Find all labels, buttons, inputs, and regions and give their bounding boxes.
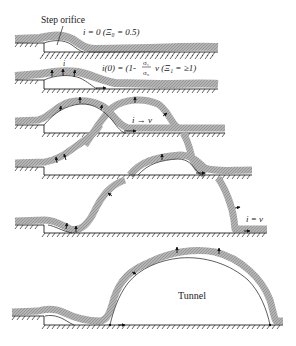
panel-6: Tunnel	[12, 247, 283, 329]
panel1-equation: i = 0 (Ξ₀ = 0.5)	[83, 27, 140, 37]
hatch-ticks	[12, 316, 280, 329]
panel5-label: i = v	[246, 214, 263, 224]
svg-text:v (Ξ₁ = ≥1): v (Ξ₁ = ≥1)	[155, 63, 196, 73]
panel3-label: i → v	[132, 115, 152, 125]
panel-5: i = v	[15, 178, 267, 237]
svg-text:σ₁: σ₁	[143, 59, 149, 67]
svg-text:σ₀: σ₀	[143, 69, 150, 77]
svg-text:i(0) = (1-: i(0) = (1-	[102, 63, 136, 73]
panel-2: i i(0) = (1- σ₁ σ₀ v (Ξ₁ = ≥1)	[15, 55, 218, 93]
panel2-equation: i(0) = (1- σ₁ σ₀ v (Ξ₁ = ≥1)	[102, 59, 196, 77]
hatch-ticks	[15, 225, 265, 237]
panel-3: i → v	[15, 97, 225, 145]
diagram-canvas: Step orifice i = 0 (Ξ₀ = 0.5) i i(0) = (…	[0, 0, 296, 346]
panel-1: Step orifice i = 0 (Ξ₀ = 0.5)	[15, 15, 218, 56]
panel2-i-label: i	[63, 59, 65, 68]
step-orifice-label: Step orifice	[41, 15, 85, 25]
tunnel-label: Tunnel	[178, 290, 206, 301]
